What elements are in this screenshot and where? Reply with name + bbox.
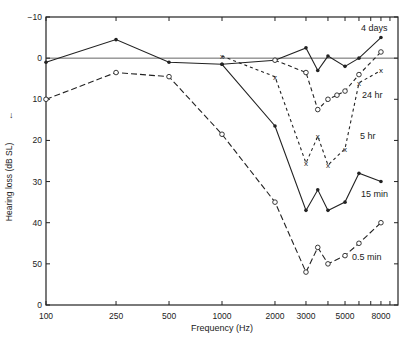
y-tick-label: 50	[33, 259, 43, 269]
data-point-dot	[304, 46, 308, 50]
data-point-circle	[326, 262, 331, 267]
y-axis-label: Hearing loss (dB SL)	[4, 143, 14, 222]
data-point-circle	[304, 270, 309, 275]
y-tick-label: 0	[37, 53, 42, 63]
series-line	[46, 73, 381, 273]
data-point-dot	[343, 65, 347, 69]
axes: 10025050010002000300050008000−1001020304…	[28, 12, 398, 321]
series-24-hr	[273, 50, 384, 112]
data-point-dot	[167, 60, 171, 64]
data-point-x: x	[316, 132, 320, 141]
data-point-circle	[273, 58, 278, 63]
y-axis-arrow-icon: ↓	[9, 110, 14, 120]
data-point-dot	[304, 209, 308, 213]
data-point-circle	[304, 70, 309, 75]
data-point-dot	[220, 63, 224, 67]
series-layer: xxxxxxxx	[44, 36, 384, 275]
x-tick-label: 250	[109, 311, 123, 321]
data-point-circle	[167, 74, 172, 79]
series-annotation: 4 days	[361, 23, 388, 33]
data-point-circle	[273, 200, 278, 205]
data-point-x: x	[220, 52, 224, 61]
series-4-days	[44, 36, 383, 73]
data-point-circle	[379, 220, 384, 225]
data-point-circle	[220, 132, 225, 137]
data-point-circle	[343, 253, 348, 258]
data-point-circle	[379, 50, 384, 55]
series-annotation: 24 hr	[362, 90, 383, 100]
series-line	[222, 56, 381, 165]
data-point-x: x	[357, 79, 361, 88]
x-axis-label: Frequency (Hz)	[191, 323, 253, 333]
x-tick-label: 100	[39, 311, 53, 321]
data-point-dot	[326, 209, 330, 213]
data-point-circle	[114, 70, 119, 75]
x-tick-label: 500	[162, 311, 176, 321]
data-point-dot	[379, 36, 383, 40]
x-tick-label: 1000	[213, 311, 232, 321]
x-tick-label: 2000	[266, 311, 285, 321]
x-tick-label: 5000	[336, 311, 355, 321]
x-tick-label: 8000	[371, 311, 390, 321]
data-point-dot	[357, 172, 361, 176]
data-point-x: x	[343, 145, 347, 154]
data-point-dot	[326, 54, 330, 58]
x-tick-label: 3000	[297, 311, 316, 321]
y-tick-label: 10	[33, 94, 43, 104]
y-tick-label: 20	[33, 135, 43, 145]
series-annotation: 0.5 min	[352, 252, 382, 262]
data-point-circle	[315, 245, 320, 250]
series-line	[46, 38, 381, 71]
data-point-dot	[343, 200, 347, 204]
series-annotation: 5 hr	[360, 131, 376, 141]
y-tick-label: −10	[28, 12, 43, 22]
data-point-circle	[357, 241, 362, 246]
series-annotation: 15 min	[361, 189, 388, 199]
data-point-x: x	[379, 66, 383, 75]
data-point-circle	[357, 72, 362, 77]
series-5-hr: xxxxxxxx	[220, 52, 383, 170]
data-point-x: x	[273, 73, 277, 82]
data-point-circle	[315, 107, 320, 112]
data-point-dot	[273, 124, 277, 128]
y-tick-label: 40	[33, 218, 43, 228]
data-point-x: x	[326, 161, 330, 170]
data-point-x: x	[304, 159, 308, 168]
data-point-circle	[343, 89, 348, 94]
y-tick-label: 0	[37, 300, 42, 310]
data-point-dot	[114, 38, 118, 42]
data-point-dot	[357, 56, 361, 60]
data-point-circle	[44, 97, 49, 102]
data-point-dot	[316, 188, 320, 192]
series-0-5-min	[44, 70, 384, 274]
data-point-dot	[379, 180, 383, 184]
data-point-dot	[316, 69, 320, 73]
data-point-circle	[326, 97, 331, 102]
hearing-loss-chart: 10025050010002000300050008000−1001020304…	[0, 0, 415, 347]
data-point-circle	[335, 93, 340, 98]
data-point-dot	[44, 60, 48, 64]
y-tick-label: 30	[33, 177, 43, 187]
